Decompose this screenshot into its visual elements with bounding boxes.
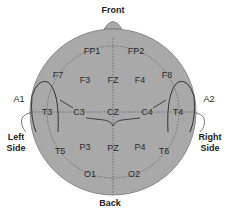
electrode-t5: T5 <box>55 147 66 156</box>
electrode-fz: FZ <box>108 76 119 85</box>
back-label: Back <box>99 199 121 208</box>
electrode-o1: O1 <box>84 170 96 179</box>
electrode-pz: PZ <box>107 144 119 153</box>
nose-shape <box>104 22 122 30</box>
electrode-f7: F7 <box>53 71 64 80</box>
electrode-t3: T3 <box>42 108 53 117</box>
electrode-t4: T4 <box>173 108 184 117</box>
ear-a2-label: A2 <box>203 95 214 104</box>
electrode-f3: F3 <box>80 76 91 85</box>
electrode-p3: P3 <box>79 143 90 152</box>
electrode-c4: C4 <box>141 108 153 117</box>
left-side-label: Left Side <box>6 132 25 154</box>
electrode-fp2: FP2 <box>128 47 145 56</box>
ear-a1-label: A1 <box>13 95 24 104</box>
electrode-o2: O2 <box>128 170 140 179</box>
electrode-c3: C3 <box>73 108 85 117</box>
electrode-p4: P4 <box>134 143 145 152</box>
electrode-cz: CZ <box>107 108 119 117</box>
electrode-fp1: FP1 <box>84 47 101 56</box>
front-label: Front <box>102 6 125 15</box>
electrode-t6: T6 <box>159 147 170 156</box>
electrode-f8: F8 <box>162 71 173 80</box>
right-side-label: Right Side <box>199 132 222 154</box>
electrode-f4: F4 <box>135 76 146 85</box>
